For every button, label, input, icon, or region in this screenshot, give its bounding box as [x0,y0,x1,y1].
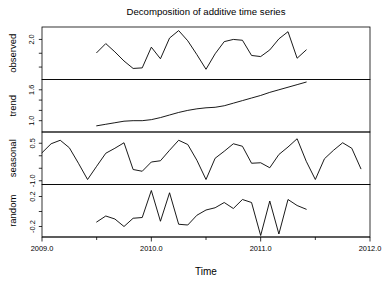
y-tick-label-random-2: 0.2 [28,191,37,201]
panel-observed: 2.0observed [7,27,370,80]
panel-random: -0.20.2random [7,185,370,238]
panel-label-random: random [7,195,18,227]
y-tick-label-seasonal-3: 0.5 [28,138,37,148]
panel-trend: 1.01.6trend [7,80,370,133]
x-tick-label-0: 2009.0 [31,244,54,253]
panel-seasonal: -1.00.5seasonal [7,132,370,187]
panel-label-trend: trend [7,95,18,117]
y-tick-label-observed-2: 2.0 [28,34,37,44]
series-line-observed [97,31,307,70]
x-tick-label-1: 2010.0 [140,244,163,253]
x-axis: 2009.02010.02011.02012.0 [31,237,382,253]
x-axis-title: Time [195,266,217,277]
panel-label-observed: observed [7,34,18,73]
y-tick-label-trend-0: 1.0 [28,116,37,126]
x-tick-label-3: 2012.0 [359,244,382,253]
decomposition-plot: Decomposition of additive time series 2.… [0,0,391,281]
decomposition-chart-canvas: Decomposition of additive time series 2.… [0,0,391,281]
y-tick-label-trend-3: 1.6 [28,85,37,95]
panel-label-seasonal: seasonal [7,139,18,177]
series-line-trend [97,82,307,126]
page-title: Decomposition of additive time series [127,6,286,17]
x-tick-label-2: 2011.0 [250,244,272,253]
series-line-random [97,191,307,236]
series-line-seasonal [42,139,361,180]
panels-group: 2.0observed1.01.6trend-1.00.5seasonal-0.… [7,27,370,237]
y-tick-label-seasonal-0: -1.0 [28,174,37,187]
y-tick-label-random-0: -0.2 [28,220,37,233]
